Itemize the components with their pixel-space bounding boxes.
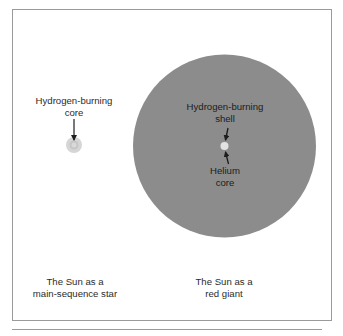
main-sequence-caption: The Sun as a main-sequence star [20,276,130,299]
label-line: Helium [195,165,255,177]
caption-line: red giant [174,288,274,300]
label-line: Hydrogen-burning [24,95,124,107]
red-giant-sun [133,55,316,238]
caption-line: main-sequence star [20,288,130,300]
label-line: core [24,107,124,119]
caption-line: The Sun as a [174,276,274,288]
core-highlight [72,143,77,148]
helium-core-label: Helium core [195,165,255,188]
label-line: shell [175,113,275,125]
label-line: core [195,177,255,189]
hydrogen-burning-shell-label: Hydrogen-burning shell [175,101,275,124]
helium-core [221,142,229,150]
label-line: Hydrogen-burning [175,101,275,113]
caption-line: The Sun as a [20,276,130,288]
hydrogen-burning-core-label: Hydrogen-burning core [24,95,124,118]
red-giant-caption: The Sun as a red giant [174,276,274,299]
